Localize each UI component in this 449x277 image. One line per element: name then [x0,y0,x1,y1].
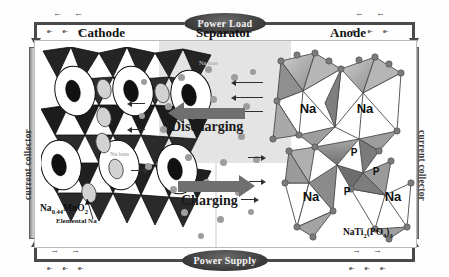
anode-heading: Anode [330,25,366,41]
anode-site-p: P [351,147,358,158]
electron-marker: e- [47,28,52,35]
charging-label: Charging [181,193,238,209]
current-collector-left-label: current collector [23,129,33,200]
na-ion [198,233,204,239]
discharging-arrow [183,108,245,119]
cathode-formula: Na0.44MnO2 [40,203,88,215]
anode-site-na: Na [385,189,402,204]
power-supply-badge[interactable]: Power Supply [182,250,268,271]
arrow-left-icon: ← [53,9,62,18]
na-ions-label-top: Na ions [199,60,218,66]
wire-bottom-right-horizontal [265,259,415,262]
ion-migration-arrow-left [235,97,263,98]
electron-row-bottom-left: e- e- e- [47,265,83,272]
ion-migration-arrow-left [235,82,263,83]
ion-migration-arrow-right [248,157,262,158]
ion-migration-arrow-right [131,170,145,171]
anode-site-na: Na [303,189,320,204]
anode-site-p: P [373,166,380,177]
electron-marker: e- [364,265,369,272]
na-ion [181,209,188,216]
separator-heading: Separator [196,25,252,41]
flow-arrows-top-right: ← ← [355,9,385,18]
arrow-left-icon: ← [376,9,385,18]
na-ion [178,74,185,81]
na-ion [217,216,224,223]
anode-site-na: Na [300,101,317,116]
electron-marker: e- [62,28,67,35]
current-collector-right-label: current collector [417,130,427,201]
cathode-caption: Elemental Na [56,217,97,225]
na-ion [210,96,217,103]
electron-row-bottom-right: e- e- e- [349,265,385,272]
na-ion [141,79,147,85]
flow-arrows-top-left: ← ← [53,9,83,18]
power-supply-label: Power Supply [193,255,256,266]
anode-site-labels: Na Na P P Na P Na [263,43,415,243]
electron-marker: e- [380,265,385,272]
na-ions-label-bottom: Na ions [110,151,129,157]
battery-schematic: Power Load Power Supply ← ← e- e- e- ← ←… [0,0,449,277]
na-ion [185,154,192,161]
ion-migration-arrow-left [131,129,145,130]
separator-center-line [215,41,217,247]
na-ion [205,66,212,73]
anode-formula: NaTi2(PO4)3 [343,227,393,239]
anode-site-p: P [344,186,351,197]
na-ion [170,186,177,193]
na-ion [139,113,145,119]
cathode-heading: Cathode [78,25,125,41]
electron-marker: e- [367,28,372,35]
electron-marker: e- [349,265,354,272]
charging-arrow [178,181,240,192]
electron-marker: e- [78,265,83,272]
discharging-label: Discharging [171,119,243,135]
wire-bottom-left-horizontal [34,259,184,262]
electron-marker: e- [62,265,67,272]
na-ion [220,159,227,166]
na-ion [160,126,167,133]
arrow-left-icon: ← [355,9,364,18]
na-ion [248,209,254,215]
arrow-left-icon: ← [74,9,83,18]
ion-migration-arrow-left [131,103,145,104]
na-ion [250,69,256,75]
electron-marker: e- [383,28,388,35]
ion-migration-arrow-right [241,199,255,200]
electron-marker: e- [47,265,52,272]
anode-site-na: Na [357,101,374,116]
